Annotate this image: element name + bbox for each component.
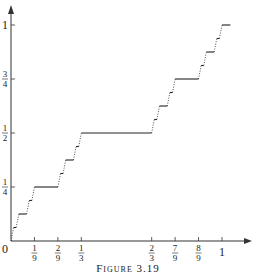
fine-structure-segment: [74, 147, 77, 161]
tick-denominator: 9: [173, 253, 178, 262]
tick-numerator: 8: [196, 243, 201, 253]
tick-numerator: 1: [3, 177, 8, 187]
tick-denominator: 3: [79, 253, 84, 262]
fine-structure-segment: [199, 66, 202, 80]
tick-denominator: 3: [149, 253, 154, 262]
tick-numerator: 3: [3, 69, 8, 79]
fine-structure-segment: [58, 174, 61, 188]
tick-numerator: 7: [173, 243, 178, 253]
fine-structure-segment: [79, 133, 82, 147]
x-axis-arrow-icon: [244, 238, 252, 244]
fine-structure-segment: [167, 93, 170, 107]
tick-numerator: 1: [79, 243, 84, 253]
figure-caption: Figure 3.19: [0, 262, 256, 274]
fine-structure-segment: [27, 201, 30, 215]
fine-structure-segment: [214, 39, 217, 53]
tick-denominator: 9: [196, 253, 201, 262]
fine-structure-segment: [204, 52, 207, 66]
fine-structure-segment: [152, 120, 155, 134]
fine-structure-segment: [32, 187, 35, 201]
fine-structure-segment: [157, 106, 160, 120]
y-axis-arrow-icon: [8, 5, 14, 14]
cantor-function-figure: 192913237989114123410: [0, 0, 256, 262]
tick-denominator: 4: [3, 79, 8, 89]
tick-denominator: 9: [32, 253, 37, 262]
tick-denominator: 4: [3, 187, 8, 197]
tick-numerator: 2: [149, 243, 154, 253]
tick-denominator: 2: [3, 133, 8, 143]
cantor-staircase-curve: [11, 25, 230, 241]
y-tick-label: 1: [2, 18, 8, 32]
x-tick-label: 1: [219, 245, 225, 259]
fine-structure-segment: [173, 79, 176, 93]
tick-numerator: 2: [56, 243, 61, 253]
fine-structure-segment: [63, 160, 66, 174]
origin-label: 0: [2, 242, 8, 256]
fine-structure-segment: [16, 214, 19, 228]
tick-labels: 192913237989114123410: [2, 18, 225, 262]
tick-numerator: 1: [3, 123, 8, 133]
axes: [8, 5, 252, 244]
tick-numerator: 1: [32, 243, 37, 253]
tick-denominator: 9: [56, 253, 61, 262]
fine-structure-segment: [219, 25, 222, 39]
